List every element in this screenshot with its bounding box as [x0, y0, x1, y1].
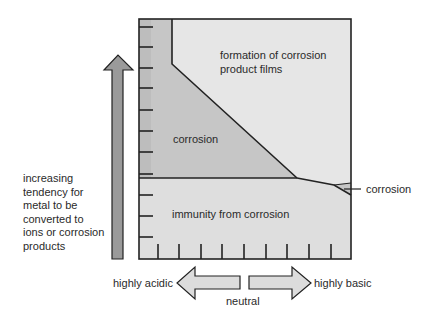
films-label-line1: formation of corrosion — [220, 49, 326, 62]
x-label-neutral: neutral — [226, 295, 260, 308]
immunity-label: immunity from corrosion — [172, 208, 289, 221]
films-label-line2: product films — [220, 63, 282, 76]
x-label-acidic: highly acidic — [113, 277, 173, 290]
diagram-canvas — [0, 0, 447, 318]
up-arrow-icon — [104, 55, 133, 259]
left-strip — [139, 19, 151, 178]
y-axis-label: increasing tendency for metal to be conv… — [23, 172, 104, 253]
corrosion-label: corrosion — [173, 133, 218, 146]
x-label-basic: highly basic — [314, 277, 371, 290]
corrosion-right-label: corrosion — [366, 183, 411, 196]
